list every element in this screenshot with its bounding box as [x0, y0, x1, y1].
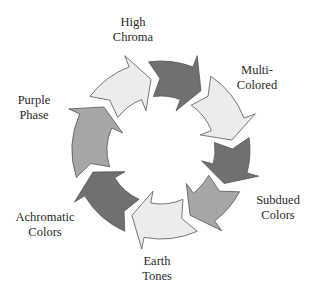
arrow-bottom-right-icon [186, 175, 239, 230]
label-line: Purple [6, 93, 62, 108]
label-high-chroma: High Chroma [105, 15, 161, 45]
arrow-top-icon [149, 56, 201, 111]
label-line: Phase [6, 108, 62, 123]
label-multi-colored: Multi- Colored [229, 63, 285, 93]
label-earth-tones: Earth Tones [132, 254, 182, 284]
label-purple-phase: Purple Phase [6, 93, 62, 123]
arrow-left-icon [69, 107, 123, 178]
label-line: Colors [10, 225, 80, 240]
label-achromatic-colors: Achromatic Colors [10, 210, 80, 240]
arrow-bottom-icon [132, 191, 197, 249]
label-line: Achromatic [10, 210, 80, 225]
label-line: Colored [229, 78, 285, 93]
label-line: Multi- [229, 63, 285, 78]
label-line: Chroma [105, 30, 161, 45]
arrow-bottom-left-icon [74, 172, 139, 232]
arrow-right-icon [202, 138, 259, 184]
label-subdued-colors: Subdued Colors [250, 193, 306, 223]
label-line: Tones [132, 269, 182, 284]
label-line: High [105, 15, 161, 30]
label-line: Subdued [250, 193, 306, 208]
label-line: Earth [132, 254, 182, 269]
label-line: Colors [250, 208, 306, 223]
